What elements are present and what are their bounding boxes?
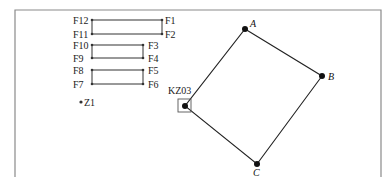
point-f11-marker [91,33,94,36]
label-vertex-b: B [328,71,334,82]
vertex-kz03-marker [182,103,188,109]
point-f9-marker [91,57,94,60]
label-z1: Z1 [84,97,95,108]
label-f2: F2 [165,29,176,40]
point-f1-marker [161,19,164,22]
point-pair-2: F10 F9 F3 F4 [73,40,159,64]
label-f1: F1 [165,15,176,26]
vertex-b-marker [319,73,325,79]
point-z1-marker [79,100,82,103]
label-f4: F4 [148,53,159,64]
label-f10: F10 [73,40,89,51]
pair-1-rectangle [92,20,162,34]
label-f5: F5 [148,65,159,76]
point-f6-marker [142,83,145,86]
point-f4-marker [142,57,145,60]
label-f3: F3 [148,40,159,51]
point-f7-marker [91,83,94,86]
label-f8: F8 [73,65,84,76]
point-pair-3: F8 F7 F5 F6 [73,65,159,90]
point-f10-marker [91,44,94,47]
point-pair-1: F12 F11 F1 F2 [73,15,176,40]
label-vertex-a: A [249,18,257,29]
layout-diagram: F12 F11 F1 F2 F10 F9 F3 F4 F8 F7 F5 F6 Z… [0,0,388,177]
pair-3-rectangle [92,70,143,84]
label-f11: F11 [73,29,88,40]
point-f12-marker [91,19,94,22]
standalone-point-z1: Z1 [79,97,95,108]
diagram-frame [15,10,381,177]
pair-2-rectangle [92,45,143,58]
label-f7: F7 [73,79,84,90]
point-f5-marker [142,69,145,72]
point-f3-marker [142,44,145,47]
quadrilateral: A B C KZ03 [168,18,334,177]
label-vertex-c: C [253,167,260,177]
quadrilateral-outline [185,29,322,164]
label-f9: F9 [73,53,84,64]
label-f6: F6 [148,79,159,90]
label-f12: F12 [73,15,89,26]
label-kz03: KZ03 [168,85,191,96]
vertex-a-marker [242,26,248,32]
point-f2-marker [161,33,164,36]
point-f8-marker [91,69,94,72]
